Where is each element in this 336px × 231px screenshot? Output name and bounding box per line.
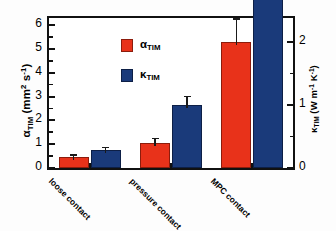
y-left-minor-tick: [49, 108, 53, 110]
y-right-tick-2: 2: [299, 34, 315, 46]
legend-item-kappa: κTIM: [121, 68, 161, 82]
y-axis-right-tick-labels: 012: [299, 16, 317, 170]
y-left-major-tick: [49, 167, 55, 169]
x-axis-category-labels: loose contactpressure contactMPC contact: [47, 172, 295, 230]
error-cap-kappa_TIM-pressure-contact: [184, 96, 191, 98]
y-right-minor-tick: [290, 136, 294, 138]
y-left-tick-0: 0: [26, 160, 42, 172]
y-axis-left-tick-labels: 0123456: [24, 16, 42, 170]
legend-swatch-alpha-icon: [121, 39, 133, 52]
legend-label-kappa: κTIM: [140, 68, 160, 82]
y-left-tick-5: 5: [26, 41, 42, 53]
bar-kappa_TIM-MPC-contact: [253, 0, 283, 168]
y-left-major-tick: [49, 72, 55, 74]
y-left-minor-tick: [49, 36, 53, 38]
figure-container: αTIM (mm2 s-1) κTIM (W m-1 K-1) 0123456 …: [0, 0, 336, 231]
y-left-major-tick: [49, 119, 55, 121]
y-left-tick-4: 4: [26, 65, 42, 77]
y-left-major-tick: [49, 24, 55, 26]
y-left-minor-tick: [49, 60, 53, 62]
y-right-major-tick: [287, 104, 293, 106]
y-left-minor-tick: [49, 131, 53, 133]
y-right-tick-1: 1: [299, 97, 315, 109]
bar-alpha_TIM-pressure-contact: [140, 143, 170, 168]
y-left-tick-2: 2: [26, 112, 42, 124]
error-bar-kappa_TIM-pressure-contact: [186, 96, 188, 108]
y-right-major-tick: [287, 167, 293, 169]
error-cap-alpha_TIM-loose-contact: [70, 154, 77, 156]
y-left-minor-tick: [49, 84, 53, 86]
y-right-major-tick: [287, 41, 293, 43]
x-label-pressure-contact: pressure contact: [128, 176, 184, 231]
legend: αTIM κTIM: [121, 38, 161, 98]
legend-label-alpha: αTIM: [140, 38, 161, 52]
y-left-tick-3: 3: [26, 89, 42, 101]
y-left-minor-tick: [49, 155, 53, 157]
bar-kappa_TIM-pressure-contact: [172, 105, 202, 168]
y-left-tick-1: 1: [26, 136, 42, 148]
error-cap-alpha_TIM-pressure-contact: [152, 138, 159, 140]
x-label-MPC-contact: MPC contact: [209, 176, 252, 219]
y-right-minor-tick: [290, 73, 294, 75]
y-left-major-tick: [49, 48, 55, 50]
legend-alpha-subscript: TIM: [147, 43, 160, 52]
plot-area: αTIM κTIM: [47, 16, 295, 170]
legend-item-alpha: αTIM: [121, 38, 161, 52]
error-bar-alpha_TIM-MPC-contact: [236, 18, 238, 45]
error-cap-alpha_TIM-MPC-contact: [233, 18, 240, 20]
y-left-major-tick: [49, 96, 55, 98]
legend-kappa-subscript: TIM: [146, 73, 159, 82]
bar-alpha_TIM-MPC-contact: [221, 42, 251, 168]
legend-swatch-kappa-icon: [121, 69, 133, 82]
x-label-loose-contact: loose contact: [47, 176, 93, 222]
y-left-tick-6: 6: [26, 17, 42, 29]
y-left-major-tick: [49, 143, 55, 145]
y-right-tick-0: 0: [299, 160, 315, 172]
error-cap-kappa_TIM-loose-contact: [102, 147, 109, 149]
